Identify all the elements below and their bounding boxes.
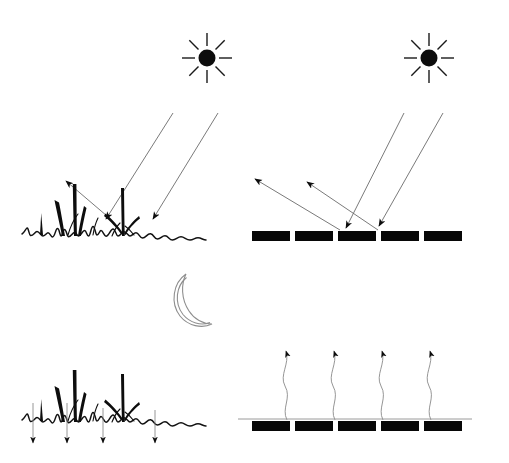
solar-panel-bar [381, 231, 419, 241]
reflected-ray-1 [255, 179, 340, 230]
reflected-rays-vegetation [66, 181, 107, 216]
reflected-ray-1 [66, 181, 107, 216]
soil-surface-night [22, 413, 206, 427]
incident-solar-ray-2 [379, 113, 443, 226]
solar-panel-bar [424, 421, 462, 431]
sun-icon [182, 33, 232, 83]
moon-crescent-icon [174, 274, 212, 326]
solar-panel-bar [424, 231, 462, 241]
solar-panel-bar [295, 421, 333, 431]
heat-plume-3 [379, 351, 383, 420]
incident-solar-rays-panels [346, 113, 443, 228]
diagram-canvas [0, 0, 509, 463]
quadrant-daytime-solar-panels [252, 33, 462, 241]
solar-panel-bar [252, 421, 290, 431]
sun-icon [404, 33, 454, 83]
quadrant-daytime-vegetation [22, 33, 232, 240]
heat-plume-4 [427, 351, 431, 420]
solar-panel-bar [295, 231, 333, 241]
heat-plume-2 [331, 351, 335, 420]
solar-panel-array-night [252, 421, 462, 431]
quadrant-nighttime-solar-panels [238, 351, 472, 431]
energy-exchange-diagram [0, 0, 509, 463]
quadrant-nighttime-vegetation [22, 370, 206, 443]
solar-panel-bar [338, 231, 376, 241]
soil-surface-day [22, 227, 206, 241]
solar-panel-bar [381, 421, 419, 431]
night-heat-plumes-panels [283, 351, 431, 420]
heat-plume-1 [283, 351, 287, 420]
solar-panel-bar [252, 231, 290, 241]
reflected-rays-panels [255, 179, 378, 230]
incident-solar-ray-1 [346, 113, 404, 228]
sun-core [421, 50, 438, 67]
moon-outer-arc [174, 274, 212, 326]
sun-core [199, 50, 216, 67]
solar-panel-bar [338, 421, 376, 431]
solar-panel-array-day [252, 231, 462, 241]
grass-blades-day [40, 184, 140, 236]
grass-blades-night [40, 370, 140, 422]
reflected-ray-2 [307, 182, 378, 230]
